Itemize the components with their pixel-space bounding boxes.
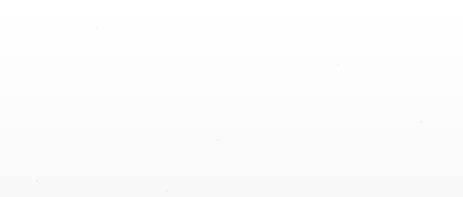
y-axis-tick-label: 27 — [35, 128, 43, 137]
bar-slot — [291, 26, 372, 175]
bar-2002[interactable] — [66, 122, 110, 175]
bar-2004[interactable] — [147, 77, 191, 175]
bar-slot — [128, 26, 209, 175]
bar-slot — [47, 26, 128, 175]
y-axis-tick-label: 32 — [35, 22, 43, 31]
bar-2006[interactable] — [228, 37, 272, 175]
chart-title: FIgure 8.2 - Tax Burden, % of GDP (Irela… — [3, 8, 460, 20]
x-axis-underline — [47, 191, 453, 192]
bar-slot — [372, 26, 453, 175]
bar-2010[interactable] — [390, 124, 434, 175]
plot-area: 3231302928272625 — [47, 26, 453, 175]
y-axis-title: Percent of GDP — [10, 48, 19, 158]
bar-slot — [209, 26, 290, 175]
y-axis-tick-label: 30 — [35, 64, 43, 73]
y-axis-tick-label: 31 — [35, 43, 43, 52]
chart-plot-frame: FIgure 8.2 - Tax Burden, % of GDP (Irela… — [2, 2, 459, 193]
y-axis-tick-label: 28 — [35, 107, 43, 116]
chart-figure: FIgure 8.2 - Tax Burden, % of GDP (Irela… — [0, 0, 463, 197]
y-axis-tick-label: 29 — [35, 85, 43, 94]
bar-series — [47, 26, 453, 175]
y-axis-tick-label: 25 — [35, 171, 43, 180]
y-axis-tick-label: 26 — [35, 149, 43, 158]
bar-2008[interactable] — [309, 88, 353, 175]
